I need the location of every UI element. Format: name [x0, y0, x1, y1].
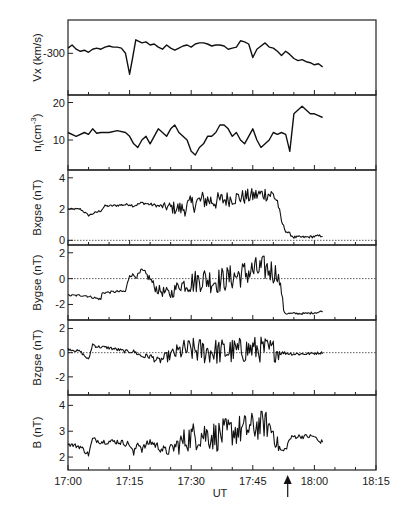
y-tick-label: 0 — [59, 347, 65, 359]
panel-bx: 024Bxgse (nT) — [31, 170, 376, 246]
panel-vx: -300Vx (km/s) — [31, 20, 376, 95]
series-line-bx — [68, 189, 323, 239]
y-tick-label: 20 — [53, 97, 65, 109]
x-tick-label: 18:00 — [301, 475, 329, 487]
series-line-ni — [68, 106, 323, 155]
y-tick-label: 2 — [59, 451, 65, 463]
panel-frame — [68, 95, 376, 170]
y-axis-label: Bzgse (nT) — [31, 329, 43, 385]
panel-frame — [68, 170, 376, 245]
panel-b: 234B (nT) — [31, 395, 376, 470]
y-axis-label: Bygse (nT) — [31, 254, 43, 310]
y-axis-label: Vx (km/s) — [31, 33, 43, 82]
series-line-bz — [68, 337, 323, 363]
y-tick-label: 10 — [53, 134, 65, 146]
panel-frame — [68, 320, 376, 395]
panel-frame — [68, 20, 376, 95]
y-axis-label: ni(cm-3) — [29, 113, 46, 151]
y-tick-label: 3 — [59, 425, 65, 437]
y-tick-label: -300 — [43, 47, 65, 59]
series-line-by — [68, 256, 323, 315]
y-axis-label: B (nT) — [31, 416, 43, 448]
x-tick-labels: 17:0017:1517:3017:4518:0018:15 — [54, 475, 390, 487]
event-arrow-icon — [284, 475, 292, 497]
x-axis-label: UT — [213, 487, 228, 499]
series-line-b — [68, 411, 323, 456]
stacked-time-series-figure: -300Vx (km/s)1020ni(cm-3)024Bxgse (nT)-2… — [0, 0, 405, 510]
y-tick-label: 2 — [59, 247, 65, 259]
x-tick-label: 17:15 — [116, 475, 144, 487]
y-tick-label: 2 — [59, 203, 65, 215]
y-axis-label: Bxgse (nT) — [31, 179, 43, 235]
y-tick-label: 4 — [59, 172, 65, 184]
y-tick-label: 4 — [59, 399, 65, 411]
y-tick-label: 2 — [59, 322, 65, 334]
y-tick-label: 0 — [59, 273, 65, 285]
panel-ni: 1020ni(cm-3) — [29, 95, 376, 170]
x-tick-label: 17:30 — [177, 475, 205, 487]
panel-frame — [68, 245, 376, 320]
y-tick-label: 0 — [59, 234, 65, 246]
x-tick-label: 18:15 — [362, 475, 390, 487]
time-axis: 17:0017:1517:3017:4518:0018:15 UT — [54, 475, 390, 499]
panels-group: -300Vx (km/s)1020ni(cm-3)024Bxgse (nT)-2… — [29, 20, 376, 470]
x-tick-label: 17:00 — [54, 475, 82, 487]
panel-bz: -202Bzgse (nT) — [31, 320, 376, 395]
series-line-vx — [68, 40, 323, 74]
x-tick-label: 17:45 — [239, 475, 267, 487]
panel-by: -202Bygse (nT) — [31, 245, 376, 320]
y-tick-label: -2 — [55, 371, 65, 383]
y-tick-label: -2 — [55, 298, 65, 310]
